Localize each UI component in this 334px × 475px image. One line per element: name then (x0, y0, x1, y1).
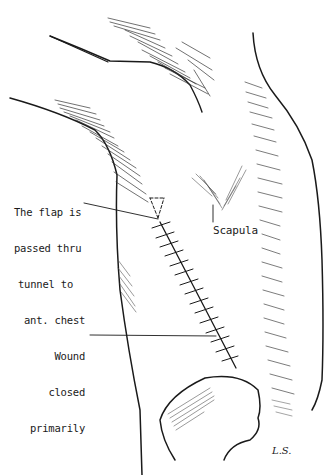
wound-label-line: closed (30, 386, 85, 398)
spine-hatching (245, 82, 294, 394)
wound-leader (90, 335, 216, 336)
scapula-label: Scapula (213, 225, 258, 237)
scapula-hatching (192, 166, 246, 210)
incision-line (160, 222, 236, 368)
wound-label-line: primarily (30, 422, 85, 434)
flap-tunnel-label: The flap is passed thru tunnel to ant. c… (14, 182, 85, 350)
artist-signature: L.S. (272, 445, 292, 456)
flap-label-line: passed thru (14, 242, 85, 254)
iliac-crest-contour (160, 377, 260, 461)
tunnel-dashes (150, 198, 164, 218)
flap-leader (84, 203, 158, 219)
right-torso-contour (253, 33, 323, 410)
hip-hatching (272, 400, 292, 416)
illustration-canvas: The flap is passed thru tunnel to ant. c… (0, 0, 334, 475)
iliac-hatching (168, 388, 214, 430)
wound-label: Wound closed primarily (30, 326, 85, 458)
axilla-hatching (108, 18, 214, 96)
left-flank-hatching (118, 260, 136, 312)
flap-label-line: ant. chest (14, 314, 85, 326)
flap-label-line: The flap is (14, 206, 85, 218)
wound-label-line: Wound (30, 350, 85, 362)
sutures (152, 222, 238, 361)
flap-label-line: tunnel to (14, 278, 85, 290)
